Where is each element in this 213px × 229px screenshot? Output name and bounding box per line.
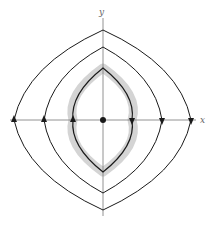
phase-portrait-diagram: y x [0, 0, 213, 229]
x-axis-label: x [200, 115, 205, 125]
y-axis-label: y [98, 7, 105, 17]
origin-dot [100, 117, 106, 123]
arrow-up-icon [11, 115, 17, 122]
arrow-up-icon [41, 115, 47, 122]
arrow-down-icon [159, 118, 165, 125]
arrow-down-icon [188, 118, 194, 125]
